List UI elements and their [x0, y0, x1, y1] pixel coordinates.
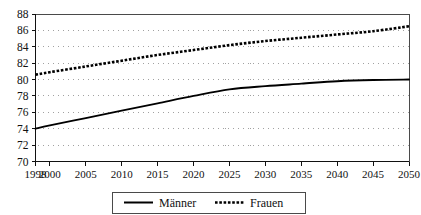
- y-axis-label-86: 86: [17, 24, 29, 36]
- y-axis-labels-group: 70727476788082848688: [17, 8, 29, 168]
- legend-label-männer: Männer: [159, 196, 196, 210]
- y-axis-label-88: 88: [17, 8, 29, 20]
- legend-label-frauen: Frauen: [250, 196, 283, 210]
- x-axis-labels-group: 1998200020052010201520202025203020352040…: [25, 168, 421, 180]
- y-axis-label-76: 76: [17, 106, 29, 118]
- y-axis-label-84: 84: [17, 41, 29, 53]
- y-axis-label-80: 80: [17, 74, 29, 86]
- x-axis-label-2050: 2050: [398, 168, 421, 180]
- x-axis-label-2035: 2035: [290, 168, 313, 180]
- line-chart: 70727476788082848688 1998200020052010201…: [0, 0, 421, 215]
- chart-plot-area: 70727476788082848688 1998200020052010201…: [0, 0, 421, 215]
- x-axis-label-2040: 2040: [326, 168, 349, 180]
- series-line-männer: [36, 80, 410, 129]
- series-line-frauen: [36, 26, 410, 74]
- plot-border: [36, 14, 410, 162]
- x-axis-label-2020: 2020: [183, 168, 206, 180]
- x-axis-label-2010: 2010: [111, 168, 134, 180]
- x-axis-label-2005: 2005: [75, 168, 98, 180]
- figure-container: 70727476788082848688 1998200020052010201…: [0, 0, 421, 215]
- x-tick-marks-group: [36, 162, 410, 166]
- y-axis-label-70: 70: [17, 156, 29, 168]
- x-axis-label-2045: 2045: [362, 168, 385, 180]
- y-axis-label-74: 74: [17, 123, 29, 135]
- y-axis-label-78: 78: [17, 90, 29, 102]
- data-series-group: [36, 26, 410, 128]
- chart-legend: MännerFrauen: [112, 192, 305, 213]
- gridlines-group: [36, 30, 410, 161]
- x-axis-label-2025: 2025: [218, 168, 241, 180]
- x-axis-label-2000: 2000: [39, 168, 62, 180]
- y-axis-label-72: 72: [17, 139, 29, 151]
- x-axis-label-2015: 2015: [147, 168, 170, 180]
- x-axis-label-2030: 2030: [254, 168, 277, 180]
- plot-frame-border: [36, 14, 410, 162]
- y-axis-label-82: 82: [17, 57, 29, 69]
